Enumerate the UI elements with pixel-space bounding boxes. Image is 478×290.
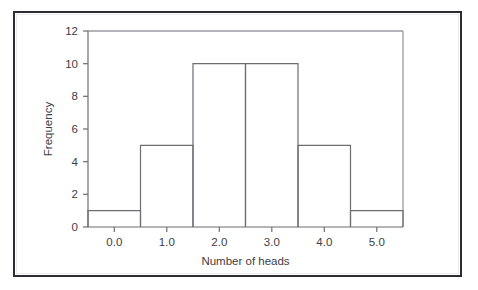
y-tick-label-2: 2	[72, 188, 78, 200]
histogram-bar	[246, 64, 299, 227]
x-axis-title: Number of heads	[201, 255, 289, 267]
x-tick-label-2: 2.0	[211, 236, 227, 248]
histogram-bar	[141, 145, 194, 227]
x-tick-label-4: 4.0	[316, 236, 332, 248]
x-tick-label-0: 0.0	[106, 236, 122, 248]
x-tick-label-5: 5.0	[369, 236, 385, 248]
histogram-bar	[298, 145, 351, 227]
y-tick-label-8: 8	[72, 90, 78, 102]
chart-canvas: 0 2 4 6 8 10 12 0.0 1.0 2.0 3.0 4.0 5.0	[0, 0, 478, 290]
y-tick-label-12: 12	[65, 25, 78, 37]
y-tick-label-0: 0	[72, 221, 78, 233]
y-axis-title: Frequency	[42, 102, 54, 157]
histogram-bar	[88, 211, 141, 227]
x-axis-tick-labels: 0.0 1.0 2.0 3.0 4.0 5.0	[106, 236, 385, 248]
y-axis-ticks	[83, 31, 88, 227]
x-tick-label-3: 3.0	[264, 236, 280, 248]
histogram-chart: 0 2 4 6 8 10 12 0.0 1.0 2.0 3.0 4.0 5.0	[0, 0, 478, 290]
y-tick-label-6: 6	[72, 123, 78, 135]
y-tick-label-10: 10	[65, 58, 78, 70]
y-axis-tick-labels: 0 2 4 6 8 10 12	[65, 25, 78, 233]
y-tick-label-4: 4	[72, 156, 79, 168]
x-tick-label-1: 1.0	[159, 236, 175, 248]
histogram-bars	[88, 64, 403, 227]
histogram-bar	[193, 64, 246, 227]
histogram-bar	[351, 211, 404, 227]
x-axis-ticks	[114, 227, 377, 232]
